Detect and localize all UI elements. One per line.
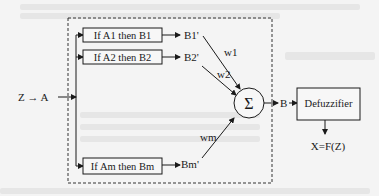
fuzzy-inference-diagram: Z → A If A1 then B1 If A2 then B2 If Am … (0, 0, 379, 196)
final-output-label: X=F(Z) (311, 140, 346, 153)
weight-w2-label: w2 (217, 68, 230, 80)
weight-wm-label: wm (200, 131, 217, 143)
summation-node: Σ (234, 88, 264, 118)
aggregate-output-label: B (280, 97, 287, 109)
defuzzifier-box: Defuzzifier (297, 88, 360, 120)
rule-m-label: If Am then Bm (91, 161, 154, 172)
output-b1-label: B1' (184, 29, 199, 41)
output-b2-label: B2' (184, 51, 199, 63)
defuzzifier-label: Defuzzifier (305, 98, 353, 109)
rule-2-label: If A2 then B2 (94, 52, 151, 63)
diagram-canvas: Z → A If A1 then B1 If A2 then B2 If Am … (0, 0, 379, 196)
rule-1-label: If A1 then B1 (94, 30, 151, 41)
sigma-icon: Σ (244, 95, 253, 112)
rule-box-2: If A2 then B2 (83, 50, 162, 64)
output-bm-label: Bm' (181, 158, 199, 170)
weight-w1-arrow (203, 36, 240, 89)
rule-box-1: If A1 then B1 (83, 28, 162, 42)
input-label: Z → A (18, 91, 49, 103)
rule-box-m: If Am then Bm (83, 158, 162, 174)
weight-w1-label: w1 (224, 46, 237, 58)
